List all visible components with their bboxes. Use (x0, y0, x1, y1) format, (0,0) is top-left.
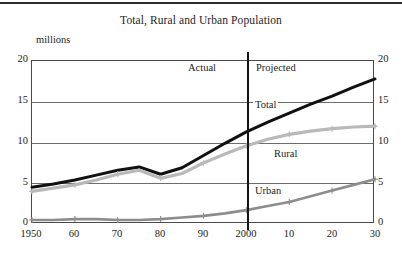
chart-title: Total, Rural and Urban Population (0, 14, 402, 26)
y-axis-tick-0: 0 (6, 216, 28, 227)
series-marker-rural (29, 188, 35, 194)
y-axis-tick-10: 10 (6, 135, 28, 146)
series-lines (32, 61, 375, 224)
x-axis-tick-1990: 90 (183, 228, 223, 239)
y-axis-right-tick-0: 0 (378, 216, 402, 227)
series-marker-urban (201, 213, 207, 219)
x-axis-tick-1980: 80 (140, 228, 180, 239)
series-marker-urban (72, 216, 78, 222)
plot-area (31, 60, 374, 223)
series-label-urban: Urban (253, 185, 283, 196)
series-marker-rural (329, 126, 335, 132)
series-line-total (32, 79, 375, 187)
x-axis-tick-2010: 10 (269, 228, 309, 239)
phase-divider-2000 (247, 52, 249, 230)
series-marker-urban (329, 188, 335, 194)
series-marker-urban (29, 217, 35, 223)
x-axis-tick-1970: 70 (97, 228, 137, 239)
phase-label-actual: Actual (188, 62, 216, 73)
series-label-rural: Rural (272, 148, 299, 159)
y-axis-right-tick-20: 20 (378, 53, 402, 64)
series-line-rural (32, 126, 375, 191)
y-axis-right-tick-10: 10 (378, 135, 402, 146)
x-axis-tick-2020: 20 (312, 228, 352, 239)
series-label-total: Total (253, 99, 278, 110)
y-axis-tick-20: 20 (6, 53, 28, 64)
phase-label-projected: Projected (256, 62, 296, 73)
population-chart-figure: Total, Rural and Urban Population millio… (0, 0, 402, 266)
series-marker-urban (158, 216, 164, 222)
series-marker-urban (115, 217, 121, 223)
y-axis-tick-5: 5 (6, 176, 28, 187)
page-top-rule (0, 2, 402, 4)
x-axis-tick-2030: 30 (355, 228, 395, 239)
y-axis-right-tick-5: 5 (378, 176, 402, 187)
series-marker-urban (286, 199, 292, 205)
x-axis-tick-1960: 60 (54, 228, 94, 239)
y-axis-right-tick-15: 15 (378, 94, 402, 105)
x-axis-tick-1950: 1950 (11, 228, 51, 239)
y-axis-unit-label: millions (36, 34, 70, 45)
series-marker-rural (372, 123, 378, 129)
y-axis-tick-15: 15 (6, 94, 28, 105)
